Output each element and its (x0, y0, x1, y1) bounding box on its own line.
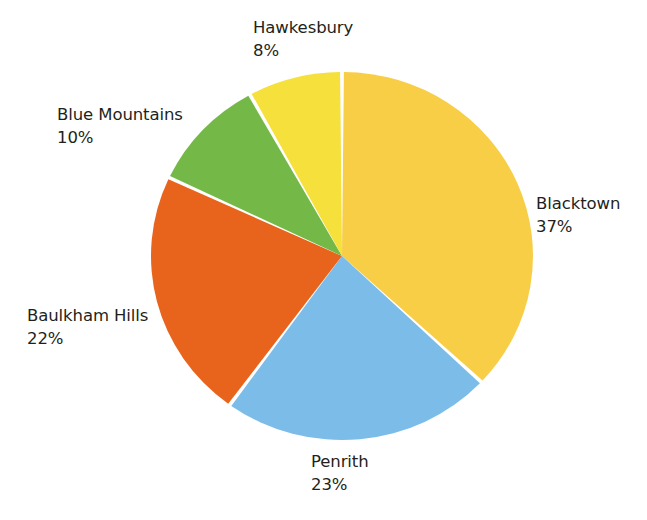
pie-label-hawkesbury-name: Hawkesbury (253, 16, 353, 39)
pie-label-blacktown: Blacktown 37% (536, 192, 620, 239)
pie-label-blue-mountains: Blue Mountains 10% (57, 103, 183, 150)
pie-label-baulkham-hills: Baulkham Hills 22% (27, 304, 148, 351)
pie-label-blue-mountains-percent: 10% (57, 126, 183, 149)
pie-slice-group (151, 72, 533, 440)
pie-label-baulkham-hills-name: Baulkham Hills (27, 304, 148, 327)
pie-label-baulkham-hills-percent: 22% (27, 327, 148, 350)
pie-chart: Hawkesbury 8% Blue Mountains 10% Baulkha… (0, 0, 647, 520)
pie-label-blacktown-name: Blacktown (536, 192, 620, 215)
pie-label-hawkesbury: Hawkesbury 8% (253, 16, 353, 63)
pie-label-penrith-percent: 23% (311, 473, 369, 496)
pie-chart-canvas (0, 0, 647, 520)
pie-label-blacktown-percent: 37% (536, 215, 620, 238)
pie-label-hawkesbury-percent: 8% (253, 39, 353, 62)
pie-label-blue-mountains-name: Blue Mountains (57, 103, 183, 126)
pie-label-penrith: Penrith 23% (311, 450, 369, 497)
pie-label-penrith-name: Penrith (311, 450, 369, 473)
